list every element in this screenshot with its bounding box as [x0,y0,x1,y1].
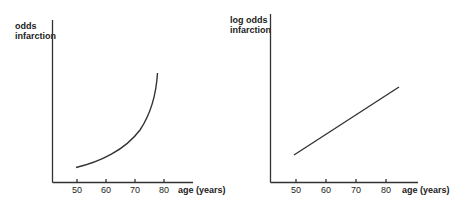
right-ylabel-line2: infarction [230,25,271,35]
left-tick-label-50: 50 [72,185,82,195]
left-chart: odds infarction 50 60 70 80 age (years) [15,20,226,195]
left-odds-curve [76,73,158,168]
right-tick-label-70: 70 [351,185,361,195]
figure: odds infarction 50 60 70 80 age (years) … [0,0,461,204]
left-ylabel-line2: infarction [15,31,56,41]
right-tick-label-80: 80 [381,185,391,195]
right-log-odds-line [294,87,399,155]
right-tick-label-50: 50 [291,185,301,195]
left-ylabel-line1: odds [15,21,37,31]
left-xlabel: age (years) [178,185,226,195]
left-tick-label-80: 80 [159,185,169,195]
right-ylabel-line1: log odds [230,15,268,25]
right-xlabel: age (years) [402,185,450,195]
left-tick-label-60: 60 [101,185,111,195]
right-chart: log odds infarction 50 60 70 80 age (yea… [230,14,450,195]
left-tick-label-70: 70 [130,185,140,195]
right-tick-label-60: 60 [321,185,331,195]
